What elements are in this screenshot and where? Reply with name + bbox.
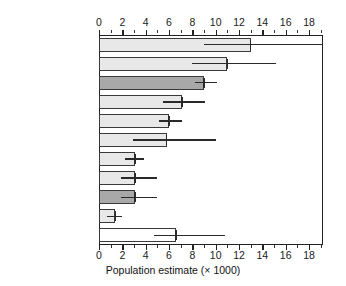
x-axis-tick-label: 4 <box>143 16 149 28</box>
error-bar <box>154 235 225 236</box>
x-axis-title: Population estimate (× 1000) <box>0 264 346 276</box>
error-bar-center-cap <box>166 135 167 145</box>
x-axis-minor-tick <box>274 245 275 248</box>
x-axis-tick-label: 14 <box>256 16 268 28</box>
error-bar <box>163 101 205 102</box>
x-axis-major-tick <box>122 30 123 35</box>
x-axis-major-tick <box>169 30 170 35</box>
x-axis-major-tick <box>192 30 193 35</box>
x-axis-major-tick <box>309 30 310 35</box>
x-axis-tick-labels-bottom: 024681012141618 <box>99 249 323 263</box>
x-axis-tick-label: 18 <box>303 249 315 261</box>
x-axis-minor-tick <box>321 245 322 248</box>
x-axis-tick-label: 2 <box>119 16 125 28</box>
x-axis-tick-label: 8 <box>189 16 195 28</box>
bar <box>99 76 204 90</box>
error-bar-center-cap <box>250 40 251 50</box>
x-axis-tick-label: 18 <box>303 16 315 28</box>
x-axis-minor-tick <box>134 245 135 248</box>
x-axis-tick-label: 12 <box>233 16 245 28</box>
x-axis-minor-tick <box>227 30 228 33</box>
x-axis-tick-label: 10 <box>210 16 222 28</box>
error-bar <box>204 44 323 45</box>
error-bar-center-cap <box>181 97 182 107</box>
x-axis-minor-tick <box>204 30 205 33</box>
x-axis-ticks-top <box>99 30 323 35</box>
x-axis-major-tick <box>239 30 240 35</box>
x-axis-minor-tick <box>157 30 158 33</box>
x-axis-minor-tick <box>227 245 228 248</box>
error-bar <box>192 63 276 64</box>
x-axis-minor-tick <box>181 245 182 248</box>
x-axis-minor-tick <box>134 30 135 33</box>
x-axis-tick-label: 0 <box>96 16 102 28</box>
x-axis-major-tick <box>99 30 100 35</box>
error-bar <box>133 139 216 140</box>
x-axis-tick-labels-top: 024681012141618 <box>99 16 323 30</box>
x-axis-tick-label: 8 <box>189 249 195 261</box>
x-axis-tick-label: 6 <box>166 16 172 28</box>
x-axis-tick-label: 0 <box>96 249 102 261</box>
x-axis-tick-label: 16 <box>280 16 292 28</box>
x-axis-minor-tick <box>111 245 112 248</box>
x-axis-minor-tick <box>181 30 182 33</box>
x-axis-major-tick <box>262 30 263 35</box>
error-bar-center-cap <box>203 78 204 88</box>
error-bar-center-cap <box>227 59 228 69</box>
error-bar-center-cap <box>134 154 135 164</box>
x-axis-major-tick <box>286 30 287 35</box>
x-axis-tick-label: 16 <box>280 249 292 261</box>
x-axis-minor-tick <box>251 30 252 33</box>
error-bar <box>121 177 157 178</box>
error-bar-center-cap <box>168 116 169 126</box>
x-axis-tick-label: 6 <box>166 249 172 261</box>
x-axis-major-tick <box>146 30 147 35</box>
x-axis-minor-tick <box>251 245 252 248</box>
x-axis-tick-label: 2 <box>119 249 125 261</box>
x-axis-tick-label: 4 <box>143 249 149 261</box>
x-axis-minor-tick <box>204 245 205 248</box>
x-axis-minor-tick <box>321 30 322 33</box>
x-axis-tick-label: 10 <box>210 249 222 261</box>
x-axis-minor-tick <box>297 30 298 33</box>
error-bar <box>121 197 157 198</box>
x-axis-minor-tick <box>297 245 298 248</box>
error-bar-center-cap <box>134 192 135 202</box>
x-axis-minor-tick <box>111 30 112 33</box>
error-bar <box>195 82 217 83</box>
error-bar-center-cap <box>115 211 116 221</box>
x-axis-tick-label: 12 <box>233 249 245 261</box>
x-axis-minor-tick <box>157 245 158 248</box>
error-bar-center-cap <box>175 230 176 240</box>
error-bar-center-cap <box>134 173 135 183</box>
x-axis-major-tick <box>216 30 217 35</box>
x-axis-tick-label: 14 <box>256 249 268 261</box>
x-axis-minor-tick <box>274 30 275 33</box>
population-estimate-bar-chart: 024681012141618 GERMANYPOLANDCROATIABELA… <box>0 0 346 286</box>
error-bar <box>159 120 182 121</box>
